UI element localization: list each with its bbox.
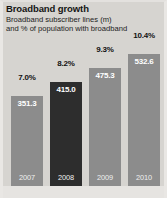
bar-value-label-2008: 415.0 xyxy=(50,85,82,94)
bar-2008: 415.0 2008 xyxy=(50,82,82,186)
figure-subtitle-line-1: Broadband subscriber lines (m) xyxy=(6,15,164,24)
figure-subtitle-line-2: and % of population with broadband xyxy=(6,24,164,33)
figure-footer-strip xyxy=(0,186,167,198)
bar-percent-label-2009: 9.3% xyxy=(89,45,121,54)
bar-category-label-2007: 2007 xyxy=(11,173,43,182)
broadband-growth-figure: Broadband growth Broadband subscriber li… xyxy=(0,0,167,198)
bar-category-label-2010: 2010 xyxy=(128,173,160,182)
bar-group-2007: 7.0% 351.3 2007 xyxy=(11,84,43,186)
page-title: Broadband growth xyxy=(6,3,164,14)
bar-percent-label-2007: 7.0% xyxy=(11,73,43,82)
bar-value-label-2010: 532.6 xyxy=(128,57,160,66)
bar-value-label-2007: 351.3 xyxy=(11,99,43,108)
bar-category-label-2008: 2008 xyxy=(50,173,82,182)
bar-group-2009: 9.3% 475.3 2009 xyxy=(89,56,121,186)
bar-2009: 475.3 2009 xyxy=(89,68,121,186)
figure-header: Broadband growth Broadband subscriber li… xyxy=(6,3,164,33)
figure-subtitle: Broadband subscriber lines (m) and % of … xyxy=(6,15,164,33)
bar-value-label-2009: 475.3 xyxy=(89,71,121,80)
bar-group-2008: 8.2% 415.0 2008 xyxy=(50,70,82,186)
bar-group-2010: 10.4% 532.6 2010 xyxy=(128,42,160,186)
bar-2007: 351.3 2007 xyxy=(11,96,43,186)
bar-category-label-2009: 2009 xyxy=(89,173,121,182)
bar-2010: 532.6 2010 xyxy=(128,54,160,186)
bar-percent-label-2008: 8.2% xyxy=(50,59,82,68)
